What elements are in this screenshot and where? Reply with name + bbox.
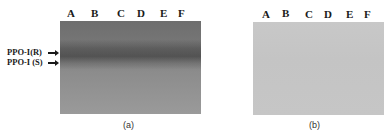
arrow-icon	[48, 62, 56, 64]
caption-b: (b)	[309, 120, 320, 130]
lane-label: C	[305, 8, 313, 20]
lane-label: B	[91, 7, 98, 19]
lane-label: D	[137, 7, 145, 19]
marker-ppo-s: PPO-I (S)	[7, 57, 43, 67]
lane-label: B	[282, 7, 289, 19]
lane-label: A	[262, 8, 270, 20]
arrow-icon	[48, 52, 56, 54]
gel-image-b	[253, 22, 384, 115]
lane-label: F	[364, 8, 371, 20]
marker-ppo-r: PPO-I(R)	[7, 47, 42, 57]
lane-label: E	[160, 7, 167, 19]
caption-a: (a)	[123, 120, 134, 130]
lane-label: A	[67, 7, 75, 19]
lane-label: C	[117, 7, 125, 19]
lane-label: E	[346, 8, 353, 20]
lane-label: D	[324, 8, 332, 20]
gel-image-a	[60, 21, 201, 114]
lane-label: F	[178, 7, 185, 19]
